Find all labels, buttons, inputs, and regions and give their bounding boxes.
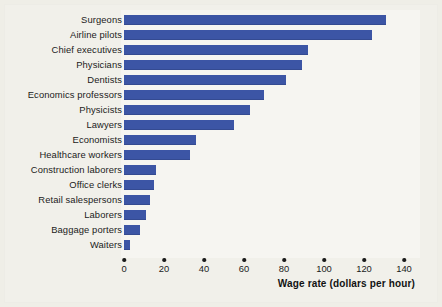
bar	[124, 60, 302, 70]
x-axis-tick-mark	[402, 258, 406, 262]
bar	[124, 150, 190, 160]
bar-row: Surgeons	[0, 14, 442, 29]
bar-category-label: Dentists	[0, 74, 122, 85]
bar	[124, 165, 156, 175]
bar-row: Airline pilots	[0, 29, 442, 44]
bar-row: Retail salespersons	[0, 194, 442, 209]
x-axis-tick-label: 120	[356, 263, 372, 274]
bar	[124, 15, 386, 25]
x-axis-tick-label: 0	[121, 263, 126, 274]
bar	[124, 210, 146, 220]
bar-row: Economists	[0, 134, 442, 149]
bar-category-label: Office clerks	[0, 179, 122, 190]
x-axis-tick-mark	[322, 258, 326, 262]
bar-category-label: Retail salespersons	[0, 194, 122, 205]
bar	[124, 195, 150, 205]
bar-row: Healthcare workers	[0, 149, 442, 164]
x-axis-tick-mark	[122, 258, 126, 262]
bar-track	[124, 210, 146, 220]
bar-rows: SurgeonsAirline pilotsChief executivesPh…	[0, 14, 442, 254]
bar-track	[124, 60, 302, 70]
bar-row: Baggage porters	[0, 224, 442, 239]
bar-track	[124, 240, 130, 250]
bar-row: Chief executives	[0, 44, 442, 59]
bar-track	[124, 195, 150, 205]
bar-row: Economics professors	[0, 89, 442, 104]
bar-category-label: Airline pilots	[0, 29, 122, 40]
bar-category-label: Economics professors	[0, 89, 122, 100]
bar-category-label: Healthcare workers	[0, 149, 122, 160]
bar-row: Laborers	[0, 209, 442, 224]
bar	[124, 30, 372, 40]
bar-track	[124, 135, 196, 145]
bar-track	[124, 165, 156, 175]
bar	[124, 225, 140, 235]
bar-category-label: Construction laborers	[0, 164, 122, 175]
bar-track	[124, 30, 372, 40]
bar-track	[124, 75, 286, 85]
x-axis-tick-label: 100	[316, 263, 332, 274]
bar-category-label: Physicians	[0, 59, 122, 70]
bar-category-label: Surgeons	[0, 14, 122, 25]
bar	[124, 120, 234, 130]
x-axis-tick-label: 80	[279, 263, 289, 274]
bar-row: Physicists	[0, 104, 442, 119]
bar-track	[124, 180, 154, 190]
bar	[124, 45, 308, 55]
x-axis-tick-mark	[202, 258, 206, 262]
bar-category-label: Baggage porters	[0, 224, 122, 235]
x-axis-tick-label: 40	[199, 263, 209, 274]
bar-row: Office clerks	[0, 179, 442, 194]
x-axis-tick-mark	[362, 258, 366, 262]
bar-category-label: Physicists	[0, 104, 122, 115]
bar-track	[124, 150, 190, 160]
bar	[124, 180, 154, 190]
bar-category-label: Laborers	[0, 209, 122, 220]
x-axis-tick-mark	[162, 258, 166, 262]
bar-category-label: Waiters	[0, 239, 122, 250]
x-axis-tick-label: 20	[159, 263, 169, 274]
bar	[124, 75, 286, 85]
bar-track	[124, 105, 250, 115]
bar-track	[124, 15, 386, 25]
bar	[124, 90, 264, 100]
bar-track	[124, 225, 140, 235]
bar-row: Construction laborers	[0, 164, 442, 179]
bar-category-label: Economists	[0, 134, 122, 145]
bar	[124, 240, 130, 250]
bar	[124, 105, 250, 115]
bar	[124, 135, 196, 145]
bar-category-label: Chief executives	[0, 44, 122, 55]
x-axis-tick-mark	[282, 258, 286, 262]
bar-row: Lawyers	[0, 119, 442, 134]
x-axis-tick-label: 140	[396, 263, 412, 274]
x-axis: 020406080100120140 Wage rate (dollars pe…	[0, 258, 442, 307]
wage-rate-bar-chart: SurgeonsAirline pilotsChief executivesPh…	[0, 0, 442, 307]
bar-category-label: Lawyers	[0, 119, 122, 130]
x-axis-tick-label: 60	[239, 263, 249, 274]
bar-track	[124, 45, 308, 55]
bar-row: Waiters	[0, 239, 442, 254]
bar-row: Dentists	[0, 74, 442, 89]
bar-track	[124, 90, 264, 100]
bar-track	[124, 120, 234, 130]
x-axis-title: Wage rate (dollars per hour)	[0, 278, 415, 289]
x-axis-tick-mark	[242, 258, 246, 262]
bar-row: Physicians	[0, 59, 442, 74]
